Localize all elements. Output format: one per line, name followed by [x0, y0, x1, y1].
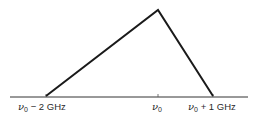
offset-text: + 1 GHz — [198, 101, 236, 112]
nu-subscript: 0 — [194, 106, 198, 113]
label-nu0: ν0 — [152, 101, 162, 114]
offset-text: − 2 GHz — [28, 101, 66, 112]
nu-subscript: 0 — [158, 106, 162, 113]
label-nu0-plus-1ghz: ν0 + 1 GHz — [188, 101, 236, 114]
triangular-profile-line — [46, 10, 213, 96]
label-nu0-minus-2ghz: ν0 − 2 GHz — [18, 101, 66, 114]
nu-subscript: 0 — [24, 106, 28, 113]
